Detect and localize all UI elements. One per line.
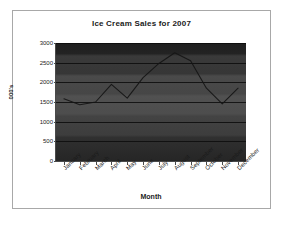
- series-line-chart: [56, 43, 246, 161]
- chart-frame: Ice Cream Sales for 2007 000's 050010001…: [12, 10, 271, 209]
- plot-area-wrapper: [56, 43, 246, 161]
- y-tick-label: 1500: [27, 99, 53, 105]
- y-tick-label: 2000: [27, 79, 53, 85]
- y-tick-label: 3000: [27, 40, 53, 46]
- y-tick-label: 2500: [27, 60, 53, 66]
- y-axis-title: 000's: [8, 85, 14, 100]
- series-line-path: [64, 53, 238, 105]
- x-axis-title: Month: [56, 193, 246, 200]
- y-tick-label: 1000: [27, 119, 53, 125]
- y-axis-tick-labels: 050010001500200025003000: [23, 43, 53, 161]
- y-tick-label: 500: [27, 138, 53, 144]
- y-tick-label: 0: [27, 158, 53, 164]
- plot-area: [56, 43, 246, 161]
- chart-title: Ice Cream Sales for 2007: [13, 19, 270, 28]
